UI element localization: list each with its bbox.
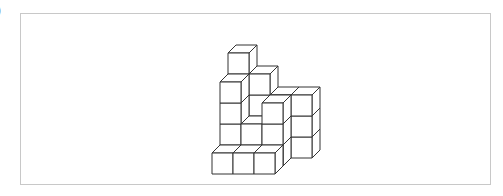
cube-front-face <box>254 153 275 174</box>
cube-front-face <box>241 124 262 145</box>
cube-front-face <box>262 103 283 124</box>
cube-front-face <box>220 82 241 103</box>
cube-front-face <box>291 137 312 158</box>
cube-front-face <box>249 74 270 95</box>
cube-front-face <box>212 153 233 174</box>
cube-front-face <box>233 153 254 174</box>
cube-front-face <box>220 124 241 145</box>
cube-front-face <box>228 53 249 74</box>
cube-front-face <box>220 103 241 124</box>
cube-stack-diagram <box>0 0 503 196</box>
cube-front-face <box>291 95 312 116</box>
cube-front-face <box>291 116 312 137</box>
cube-front-face <box>262 124 283 145</box>
